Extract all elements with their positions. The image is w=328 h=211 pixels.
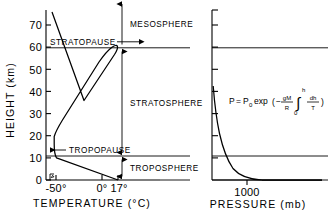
layer-boundary-lines (46, 48, 328, 180)
y-tick-label-50: 50 (29, 64, 42, 76)
y-tick-label-70: 70 (29, 19, 42, 31)
layer-label-stratosphere: STRATOSPHERE (130, 99, 203, 108)
pressure-plot: 1000 PRESSURE (mb) P = P 0 exp ( − gM R … (210, 10, 324, 210)
barometric-formula: P = P 0 exp ( − gM R ∫ h 0 dh T ) (229, 87, 324, 116)
y-tick-label-10: 10 (29, 152, 42, 164)
tropopause-label: TROPOPAUSE (69, 146, 131, 155)
pressure-x-axis-title: PRESSURE (mb) (210, 198, 307, 210)
y-tick-label-40: 40 (29, 86, 42, 98)
x-tick-label-zero: 0° (97, 182, 108, 194)
y-tick-label-20: 20 (29, 130, 42, 142)
x-tick-label-17: 17° (110, 182, 127, 194)
ground-hatch-icon (50, 174, 54, 180)
layer-label-troposphere: TROPOSPHERE (130, 164, 199, 173)
y-tick-label-0: 0 (36, 174, 42, 186)
formula-open-paren: ( (272, 97, 275, 107)
stratopause-label: STRATOPAUSE (50, 38, 116, 47)
formula-fraction2-numerator: dh (310, 95, 317, 101)
pressure-x-tick-label-1000: 1000 (234, 186, 259, 198)
layer-label-mesosphere: MESOSPHERE (130, 20, 193, 29)
temperature-x-ticks (56, 175, 118, 180)
temperature-x-axis-title: TEMPERATURE (°C) (33, 197, 151, 209)
formula-p-subscript: 0 (249, 102, 253, 108)
formula-fraction1-numerator: gM (283, 95, 291, 101)
figure-canvas: 70 60 50 40 30 20 10 0 HEIGHT (km) -50° … (0, 0, 328, 211)
x-tick-label-minus50: -50° (45, 182, 66, 194)
temperature-y-axis-title: HEIGHT (km) (4, 62, 16, 138)
formula-fraction1-denominator: R (285, 105, 290, 111)
formula-integral-upper-limit: h (302, 87, 305, 93)
y-tick-label-30: 30 (29, 108, 42, 120)
formula-minus-sign: − (276, 96, 281, 106)
formula-exp: exp (254, 96, 268, 106)
y-tick-label-60: 60 (29, 41, 42, 53)
formula-close-paren: ) (321, 97, 324, 107)
pressure-y-ticks (212, 10, 218, 158)
formula-lhs: P (229, 96, 235, 106)
atmosphere-profile-figure: 70 60 50 40 30 20 10 0 HEIGHT (km) -50° … (0, 0, 328, 211)
formula-fraction2-denominator: T (311, 105, 315, 111)
formula-equals: = (236, 96, 241, 106)
